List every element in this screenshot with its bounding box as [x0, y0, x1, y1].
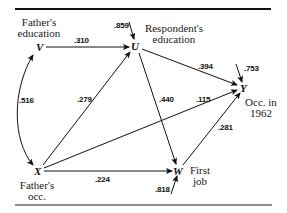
label-respondents-education: Respondent's education	[140, 23, 208, 45]
label-line: education	[140, 34, 208, 45]
residual-w: .818	[155, 186, 170, 194]
label-line: occ.	[15, 191, 59, 202]
coef-u-y: .394	[198, 63, 213, 71]
label-line: education	[14, 28, 64, 39]
edge-x-u	[43, 52, 130, 165]
label-occ-1962: Occ. in 1962	[243, 97, 279, 119]
coef-v-x: .516	[19, 97, 34, 105]
label-line: job	[187, 176, 213, 187]
coef-v-u: .310	[74, 37, 89, 45]
node-y: Y	[240, 83, 247, 94]
node-x: X	[34, 166, 41, 177]
coef-w-y: .281	[218, 124, 233, 132]
node-u: U	[131, 41, 139, 52]
edge-u-w	[139, 53, 176, 164]
residual-y: .753	[244, 65, 259, 73]
residual-u: .859	[114, 22, 129, 30]
residual-u-arrow	[129, 22, 134, 39]
label-fathers-education: Father's education	[14, 17, 64, 39]
node-v: V	[36, 42, 43, 53]
edge-u-y	[142, 49, 237, 85]
label-line: 1962	[243, 108, 279, 119]
node-w: W	[173, 166, 183, 177]
label-first-job: First job	[187, 165, 213, 187]
coef-x-y: .115	[196, 96, 210, 104]
coef-u-w: .440	[159, 96, 174, 104]
edge-v-x-correlation	[17, 55, 33, 165]
coef-x-w: .224	[95, 176, 110, 184]
residual-w-arrow	[171, 176, 177, 194]
coef-x-u: .279	[77, 96, 92, 104]
label-fathers-occ: Father's occ.	[15, 180, 59, 202]
residual-y-arrow	[236, 64, 242, 82]
